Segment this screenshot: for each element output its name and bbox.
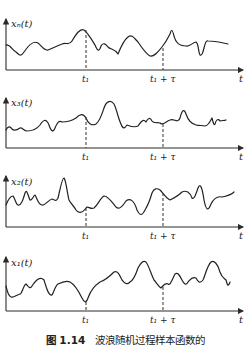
panel-x3: x₃(t) t₁ t₁ + τ t <box>6 97 244 162</box>
panel-x2: x₂(t) t₁ t₁ + τ t <box>6 176 244 241</box>
wave-random-process-figure: xₙ(t) t₁ t₁ + τ t x₃(t) t₁ t₁ + τ t x₂(t… <box>0 0 251 350</box>
y-label-x2: x₂(t) <box>11 176 33 187</box>
x-label-t: t <box>239 151 244 162</box>
tick-t1: t₁ <box>82 315 89 325</box>
x-label-t: t <box>239 314 244 325</box>
tick-t1: t₁ <box>82 231 89 241</box>
y-label-x1: x₁(t) <box>11 257 33 268</box>
x-label-t: t <box>239 73 244 84</box>
curve-x2 <box>6 178 234 215</box>
curve-x1 <box>6 261 230 301</box>
caption-number: 图 1.14 <box>46 334 86 346</box>
tick-t1-tau: t₁ + τ <box>150 152 176 162</box>
tick-t1-tau: t₁ + τ <box>150 231 176 241</box>
tick-t1: t₁ <box>82 74 89 84</box>
panel-xn: xₙ(t) t₁ t₁ + τ t <box>6 18 244 84</box>
y-label-xn: xₙ(t) <box>11 18 33 29</box>
tick-t1-tau: t₁ + τ <box>150 74 176 84</box>
curve-x3 <box>6 101 226 131</box>
tick-t1: t₁ <box>82 152 89 162</box>
panel-x1: x₁(t) t₁ t₁ + τ t <box>6 257 244 325</box>
y-label-x3: x₃(t) <box>11 97 33 108</box>
curve-xn <box>6 30 228 57</box>
x-label-t: t <box>239 230 244 241</box>
figure-caption: 图 1.14波浪随机过程样本函数的 <box>0 332 251 347</box>
caption-text: 波浪随机过程样本函数的 <box>95 334 205 346</box>
tick-t1-tau: t₁ + τ <box>150 315 176 325</box>
